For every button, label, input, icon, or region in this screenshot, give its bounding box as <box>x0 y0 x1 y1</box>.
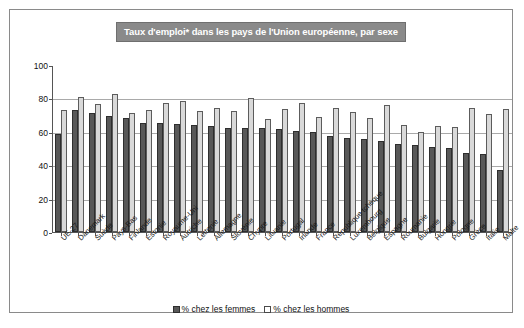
bar-hommes <box>197 111 203 232</box>
bar-group <box>123 66 135 232</box>
bar-group <box>497 66 509 232</box>
bar-hommes <box>469 108 475 232</box>
bar-group <box>378 66 390 232</box>
bar-group <box>140 66 152 232</box>
y-tick-label-40: 40 <box>39 161 48 171</box>
y-tick-label-60: 60 <box>39 128 48 138</box>
bar-group <box>446 66 458 232</box>
bar-hommes <box>486 114 492 232</box>
bar-group <box>412 66 424 232</box>
bar-hommes <box>299 103 305 232</box>
legend-label-femmes: % chez les femmes <box>182 304 256 314</box>
bar-hommes <box>61 110 67 232</box>
bar-hommes <box>214 108 220 232</box>
bar-group <box>276 66 288 232</box>
y-tick-label-20: 20 <box>39 195 48 205</box>
bar-group <box>327 66 339 232</box>
bar-group <box>55 66 67 232</box>
bar-group <box>225 66 237 232</box>
chart-legend: % chez les femmes % chez les hommes <box>10 304 512 314</box>
bar-group <box>89 66 101 232</box>
bar-group <box>157 66 169 232</box>
bar-group <box>463 66 475 232</box>
legend-item-hommes: % chez les hommes <box>264 304 349 314</box>
bar-hommes <box>333 108 339 232</box>
bar-group <box>174 66 186 232</box>
y-tick-label-0: 0 <box>43 228 48 238</box>
y-tick-label-100: 100 <box>34 61 48 71</box>
page-title: Taux d'emploi* dans les pays de l'Union … <box>116 22 406 42</box>
chart-screenshot: Taux d'emploi* dans les pays de l'Union … <box>0 0 524 328</box>
bar-group <box>208 66 220 232</box>
bar-group <box>72 66 84 232</box>
bar-hommes <box>265 119 271 232</box>
chart-frame: Taux d'emploi* dans les pays de l'Union … <box>9 9 513 313</box>
x-axis-labels: UE-27DanemarkSuèdePays-BasFinlandeEstoni… <box>52 234 512 304</box>
bars-layer <box>52 66 512 233</box>
legend-label-hommes: % chez les hommes <box>273 304 349 314</box>
y-tick-label-80: 80 <box>39 94 48 104</box>
bar-hommes <box>316 117 322 232</box>
chart-title-container: Taux d'emploi* dans les pays de l'Union … <box>10 21 512 42</box>
bar-group <box>395 66 407 232</box>
y-axis-line <box>52 66 53 233</box>
bar-hommes <box>503 109 509 232</box>
y-axis-labels: 020406080100 <box>26 66 48 233</box>
legend-item-femmes: % chez les femmes <box>173 304 256 314</box>
bar-group <box>310 66 322 232</box>
bar-hommes <box>78 97 84 232</box>
bar-group <box>242 66 254 232</box>
legend-swatch-hommes-icon <box>264 306 271 313</box>
bar-hommes <box>435 126 441 232</box>
bar-hommes <box>384 105 390 232</box>
bar-group <box>106 66 118 232</box>
bar-hommes <box>112 94 118 232</box>
legend-swatch-femmes-icon <box>173 306 180 313</box>
bar-group <box>293 66 305 232</box>
bar-hommes <box>248 98 254 232</box>
bar-hommes <box>452 127 458 232</box>
bar-hommes <box>282 109 288 232</box>
bar-group <box>259 66 271 232</box>
bar-hommes <box>163 103 169 232</box>
bar-hommes <box>146 110 152 232</box>
bar-group <box>344 66 356 232</box>
plot-area <box>52 66 512 233</box>
bar-group <box>480 66 492 232</box>
bar-group <box>429 66 441 232</box>
